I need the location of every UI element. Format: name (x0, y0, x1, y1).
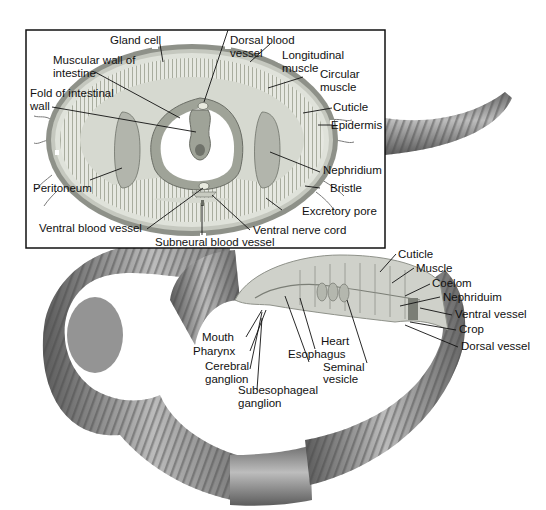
label-nephridium: Nephridium (323, 164, 382, 176)
label-heart: Heart (321, 335, 350, 347)
label-muscle: Muscle (416, 262, 452, 274)
label-nephriduim: Nephriduim (443, 291, 502, 303)
label-cuticle-body: Cuticle (398, 248, 433, 260)
label-muscular-wall-1: Muscular wall of (53, 54, 136, 66)
label-seminal-1: Seminal (323, 361, 365, 373)
label-dorsal-vessel: Dorsal vessel (461, 340, 530, 352)
label-mouth: Mouth (202, 331, 234, 343)
label-subneural-blood-vessel: Subneural blood vessel (155, 236, 275, 248)
label-fold-2: wall (29, 100, 50, 112)
label-cuticle-xs: Cuticle (333, 101, 368, 113)
label-dorsal-blood-1: Dorsal blood (230, 34, 295, 46)
label-peritoneum: Peritoneum (33, 182, 92, 194)
label-fold-1: Fold of intestinal (30, 87, 114, 99)
label-bristle: Bristle (330, 182, 362, 194)
label-subesophageal-2: ganglion (238, 397, 281, 409)
label-longitudinal-1: Longitudinal (282, 49, 344, 61)
label-crop: Crop (459, 323, 484, 335)
worm-body (43, 244, 465, 506)
label-excretory-pore: Excretory pore (302, 205, 377, 217)
label-cerebral-1: Cerebral (205, 360, 249, 372)
label-seminal-2: vesicle (323, 373, 358, 385)
label-circular-1: Circular (320, 68, 360, 80)
label-coelom: Coelom (432, 277, 472, 289)
label-subesophageal-1: Subesophageal (238, 384, 318, 396)
label-gland-cell: Gland cell (110, 34, 161, 46)
label-longitudinal-2: muscle (282, 62, 318, 74)
label-ventral-vessel: Ventral vessel (455, 308, 527, 320)
earthworm-diagram: Gland cell Muscular wall of intestine Fo… (0, 0, 546, 510)
label-muscular-wall-2: intestine (53, 67, 96, 79)
label-epidermis: Epidermis (331, 119, 382, 131)
label-circular-2: muscle (320, 81, 356, 93)
label-esophagus: Esophagus (288, 348, 346, 360)
label-dorsal-blood-2: vessel (230, 47, 263, 59)
label-ventral-nerve-cord: Ventral nerve cord (253, 224, 346, 236)
label-pharynx: Pharynx (193, 345, 235, 357)
worm-tail (385, 92, 512, 155)
label-ventral-blood-vessel: Ventral blood vessel (39, 222, 142, 234)
